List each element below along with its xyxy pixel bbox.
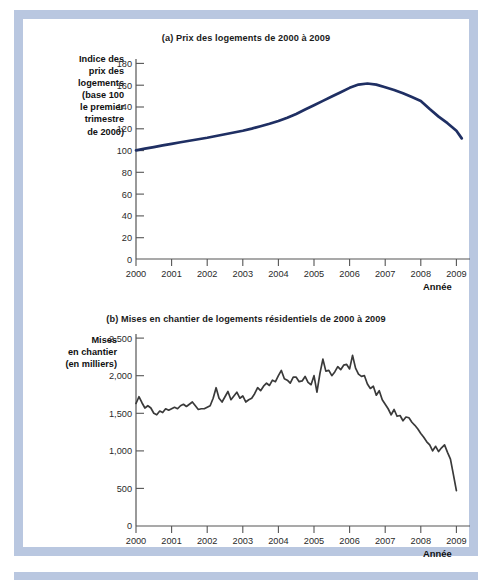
figure-frame: (a) Prix des logements de 2000 à 2009 In…	[14, 10, 478, 556]
svg-text:2001: 2001	[161, 269, 181, 279]
svg-text:2004: 2004	[268, 536, 288, 546]
svg-text:2002: 2002	[197, 269, 217, 279]
svg-text:180: 180	[117, 59, 132, 69]
svg-text:1,000: 1,000	[109, 446, 132, 456]
panel-b-y-tick-labels: 2,500 2,000 1,500 1,000 500 0	[109, 334, 132, 532]
svg-text:20: 20	[122, 233, 132, 243]
panel-b-x-axis-title: Année	[423, 548, 452, 559]
panel-a-series-line	[136, 84, 462, 151]
panel-b-series-line	[136, 355, 456, 490]
panel-b-y-ticks	[136, 338, 144, 488]
svg-text:2004: 2004	[268, 269, 288, 279]
panel-a-y-tick-labels: 180 160 140 120 100 80 60 40 20 0	[117, 59, 132, 265]
svg-text:2002: 2002	[197, 536, 217, 546]
panel-a-x-axis-title: Année	[423, 281, 452, 292]
svg-text:160: 160	[117, 81, 132, 91]
panel-b-x-ticks	[136, 526, 456, 533]
svg-text:2008: 2008	[411, 536, 431, 546]
svg-text:2,500: 2,500	[109, 334, 132, 344]
panel-a: (a) Prix des logements de 2000 à 2009 In…	[23, 19, 469, 309]
svg-text:80: 80	[122, 168, 132, 178]
svg-text:2006: 2006	[339, 536, 359, 546]
svg-text:2003: 2003	[233, 269, 253, 279]
svg-text:1,500: 1,500	[109, 409, 132, 419]
svg-text:0: 0	[127, 255, 132, 265]
svg-text:2001: 2001	[161, 536, 181, 546]
svg-text:2009: 2009	[446, 536, 466, 546]
svg-text:2003: 2003	[233, 536, 253, 546]
svg-text:2005: 2005	[304, 269, 324, 279]
panel-b-x-tick-labels: 2000 2001 2002 2003 2004 2005 2006 2007 …	[126, 536, 467, 546]
svg-text:2006: 2006	[339, 269, 359, 279]
panel-b-plot: 2,500 2,000 1,500 1,000 500 0	[23, 306, 473, 556]
svg-text:2007: 2007	[375, 269, 395, 279]
panel-b: (b) Mises en chantier de logements résid…	[23, 306, 469, 556]
svg-text:60: 60	[122, 190, 132, 200]
svg-text:2,000: 2,000	[109, 371, 132, 381]
svg-text:100: 100	[117, 146, 132, 156]
panel-a-plot: 180 160 140 120 100 80 60 40 20 0	[23, 19, 473, 309]
svg-text:2007: 2007	[375, 536, 395, 546]
panel-a-x-tick-labels: 2000 2001 2002 2003 2004 2005 2006 2007 …	[126, 269, 467, 279]
svg-text:2009: 2009	[446, 269, 466, 279]
svg-text:2000: 2000	[126, 269, 146, 279]
svg-text:120: 120	[117, 124, 132, 134]
svg-text:2005: 2005	[304, 536, 324, 546]
svg-text:2008: 2008	[411, 269, 431, 279]
svg-text:40: 40	[122, 211, 132, 221]
panel-a-x-ticks	[136, 259, 456, 266]
svg-text:2000: 2000	[126, 536, 146, 546]
figure-bottom-rule	[14, 572, 478, 580]
svg-text:0: 0	[127, 521, 132, 531]
svg-text:140: 140	[117, 102, 132, 112]
svg-text:500: 500	[117, 484, 132, 494]
